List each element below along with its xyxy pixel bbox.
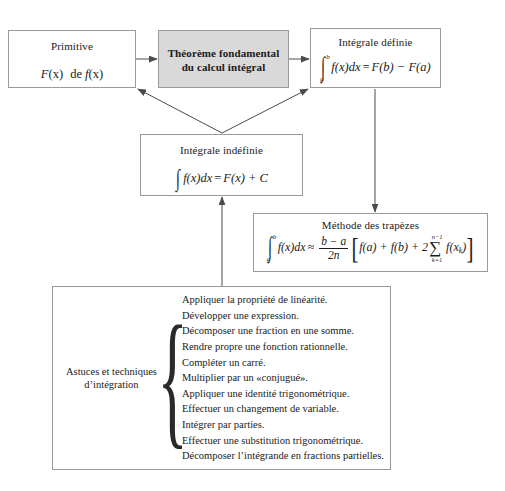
- list-item: Appliquer la propriété de linéarité.: [182, 292, 384, 308]
- theoreme-title-line2: du calcul intégral: [159, 61, 288, 75]
- list-item: Compléter un carré.: [182, 355, 384, 371]
- node-astuces-techniques[interactable]: Astuces et techniques d’intégration { Ap…: [52, 286, 391, 470]
- integral-sign-icon: ∫: [175, 166, 183, 192]
- astuces-label: Astuces et techniques d’intégration: [53, 365, 166, 391]
- trapezes-frac-num: b − a: [319, 235, 348, 248]
- trapezes-sum-arg: f(x: [446, 240, 459, 254]
- trapezes-sum-bot: k=1: [429, 256, 445, 263]
- astuces-label-line1: Astuces et techniques: [57, 365, 166, 378]
- list-item: Développer une expression.: [182, 308, 384, 324]
- integrale-definie-equals: =: [360, 60, 371, 74]
- list-item: Effectuer un changement de variable.: [182, 401, 384, 417]
- astuces-list: Appliquer la propriété de linéarité. Dév…: [179, 292, 390, 464]
- theoreme-title-line1: Théorème fondamental: [159, 47, 288, 61]
- primitive-title: Primitive: [9, 40, 135, 53]
- trapezes-formula: b ∫ a f(x)dx≈b − a2n[f(a) + f(b) + 2n−1∑…: [254, 235, 487, 261]
- integral-sign-icon: b ∫ a: [320, 55, 331, 81]
- integrale-definie-title: Intégrale définie: [311, 36, 440, 49]
- integrale-indefinie-integrand: f(x)dx: [183, 171, 212, 185]
- integrale-indefinie-formula: ∫ f(x)dx=F(x) + C: [141, 166, 302, 192]
- list-item: Intégrer par parties.: [182, 417, 384, 433]
- integrale-definie-formula: b ∫ a f(x)dx=F(b) − F(a): [311, 55, 440, 81]
- list-item: Décomposer l’intégrande en fractions par…: [182, 448, 384, 464]
- list-item: Effectuer une substitution trigonométriq…: [182, 433, 384, 449]
- list-item: Appliquer une identité trigonométrique.: [182, 386, 384, 402]
- bracket-open-icon: [: [352, 236, 359, 259]
- trapezes-fraction: b − a2n: [319, 235, 348, 260]
- astuces-label-line2: d’intégration: [57, 378, 166, 391]
- integrale-indefinie-rhs: F(x) + C: [223, 171, 268, 185]
- trapezes-upper: b: [273, 233, 277, 241]
- list-item: Rendre propre une fonction rationnelle.: [182, 339, 384, 355]
- trapezes-frac-den: 2n: [319, 249, 348, 261]
- summation-icon: n−1∑k=1: [429, 236, 445, 260]
- node-primitive[interactable]: Primitive F(x) de f(x): [8, 30, 136, 88]
- integrale-definie-upper: b: [326, 53, 330, 61]
- trapezes-approx: ≈: [306, 240, 317, 254]
- bracket-close-icon: ]: [467, 236, 474, 259]
- primitive-x2: (x): [89, 67, 104, 81]
- node-integrale-definie[interactable]: Intégrale définie b ∫ a f(x)dx=F(b) − F(…: [310, 28, 441, 88]
- list-item: Décomposer une fraction en une somme.: [182, 323, 384, 339]
- arrow-indefinie-to-primitive: [138, 89, 222, 133]
- integrale-definie-lower: a: [320, 75, 324, 83]
- sigma-glyph: ∑: [429, 239, 441, 256]
- integral-sign-icon: b ∫ a: [267, 235, 278, 261]
- integrale-indefinie-title: Intégrale indéfinie: [141, 144, 302, 157]
- trapezes-title: Méthode des trapèzes: [254, 219, 487, 232]
- trapezes-integrand: f(x)dx: [278, 240, 306, 254]
- concept-map-canvas: Primitive F(x) de f(x) Théorème fondamen…: [0, 0, 505, 491]
- integrale-indefinie-equals: =: [212, 171, 223, 185]
- brace-icon: {: [170, 332, 175, 425]
- arrow-indefinie-to-definie: [222, 89, 308, 133]
- integrale-definie-rhs: F(b) − F(a): [372, 60, 431, 74]
- primitive-formula: F(x) de f(x): [9, 64, 135, 82]
- node-integrale-indefinie[interactable]: Intégrale indéfinie ∫ f(x)dx=F(x) + C: [140, 134, 303, 196]
- primitive-de: de: [70, 67, 82, 81]
- integrale-definie-integrand: f(x)dx: [331, 60, 360, 74]
- trapezes-terms: f(a) + f(b) + 2: [359, 240, 428, 254]
- primitive-x1: (x): [48, 67, 63, 81]
- trapezes-lower: a: [267, 255, 271, 263]
- node-methode-trapezes[interactable]: Méthode des trapèzes b ∫ a f(x)dx≈b − a2…: [253, 213, 488, 272]
- node-theoreme-fondamental[interactable]: Théorème fondamental du calcul intégral: [158, 30, 289, 88]
- list-item: Multiplier par un «conjugué».: [182, 370, 384, 386]
